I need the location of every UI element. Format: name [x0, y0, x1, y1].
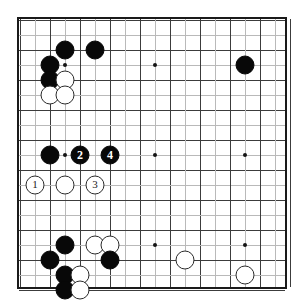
grid-line-vertical [290, 19, 291, 287]
white-move-stone-3[interactable]: 3 [86, 176, 105, 195]
star-point [153, 243, 157, 247]
black-stone[interactable] [56, 41, 75, 60]
move-number-label: 2 [77, 149, 83, 161]
grid-line-vertical [260, 19, 261, 287]
grid-line-vertical [200, 19, 201, 287]
white-move-stone-1[interactable]: 1 [26, 176, 45, 195]
star-point [63, 153, 67, 157]
grid-line-vertical [170, 19, 171, 287]
black-stone[interactable] [56, 236, 75, 255]
black-stone[interactable] [236, 56, 255, 75]
grid-line-vertical [230, 19, 231, 287]
grid-line-vertical [185, 19, 186, 287]
black-stone[interactable] [86, 41, 105, 60]
grid-line-vertical [215, 19, 216, 287]
star-point [63, 63, 67, 67]
black-move-stone-4[interactable]: 4 [101, 146, 120, 165]
grid-line-vertical [275, 19, 276, 287]
white-stone[interactable] [176, 251, 195, 270]
go-diagram: 1234 [0, 0, 303, 305]
grid-line-vertical [125, 19, 126, 287]
go-board[interactable]: 1234 [17, 17, 287, 289]
black-move-stone-2[interactable]: 2 [71, 146, 90, 165]
black-stone[interactable] [41, 146, 60, 165]
black-stone[interactable] [101, 251, 120, 270]
white-stone[interactable] [56, 176, 75, 195]
move-number-label: 1 [32, 179, 38, 190]
white-stone[interactable] [56, 86, 75, 105]
star-point [243, 153, 247, 157]
black-stone[interactable] [41, 251, 60, 270]
grid-line-vertical [140, 19, 141, 287]
star-point [243, 243, 247, 247]
star-point [153, 153, 157, 157]
grid-line-vertical [35, 19, 36, 287]
white-stone[interactable] [71, 281, 90, 300]
star-point [153, 63, 157, 67]
white-stone[interactable] [236, 266, 255, 285]
move-number-label: 4 [107, 149, 113, 161]
move-number-label: 3 [92, 179, 98, 190]
grid-line-vertical [20, 19, 21, 287]
